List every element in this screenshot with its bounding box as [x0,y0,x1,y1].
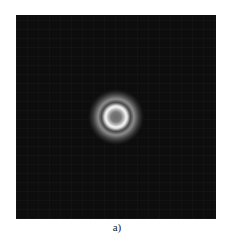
figure-caption: a) [0,221,230,233]
concentric-rings-image [88,89,144,145]
figure-panel [16,15,216,219]
